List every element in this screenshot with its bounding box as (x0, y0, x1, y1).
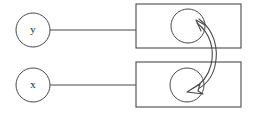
container-box-bottom (136, 62, 241, 107)
curve-outer-stroke (194, 19, 216, 91)
container-box-top (136, 4, 241, 48)
curved-double-arrow-connector (187, 19, 216, 94)
diagram-svg: y x (0, 0, 255, 114)
node-label-y: y (30, 23, 36, 35)
arrowhead-lower-open (187, 84, 203, 94)
diagram-canvas: y x (0, 0, 255, 114)
node-label-x: x (30, 78, 36, 90)
